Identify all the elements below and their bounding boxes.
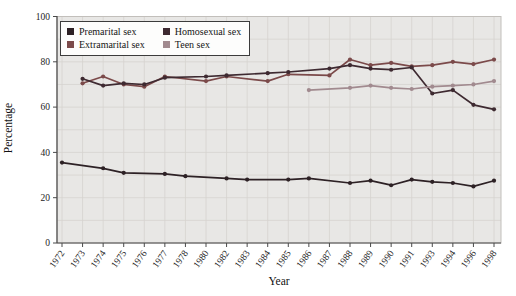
data-point bbox=[389, 86, 393, 90]
data-point bbox=[60, 160, 64, 164]
legend-item: Teen sex bbox=[163, 38, 241, 51]
data-point bbox=[410, 177, 414, 181]
y-tick-label: 20 bbox=[41, 193, 51, 203]
x-tick-label: 1987 bbox=[315, 248, 334, 270]
data-point bbox=[307, 176, 311, 180]
x-tick-label: 1984 bbox=[253, 248, 272, 270]
data-point bbox=[389, 61, 393, 65]
x-tick-label: 1996 bbox=[459, 248, 478, 270]
data-point bbox=[80, 77, 84, 81]
data-point bbox=[451, 181, 455, 185]
data-point bbox=[348, 63, 352, 67]
data-point bbox=[142, 82, 146, 86]
data-point bbox=[122, 171, 126, 175]
data-point bbox=[451, 60, 455, 64]
legend-swatch-icon bbox=[163, 28, 170, 35]
x-tick-label: 1993 bbox=[418, 248, 437, 270]
data-point bbox=[183, 174, 187, 178]
data-point bbox=[307, 88, 311, 92]
data-point bbox=[471, 62, 475, 66]
data-point bbox=[430, 91, 434, 95]
data-point bbox=[101, 74, 105, 78]
data-point bbox=[348, 57, 352, 61]
legend-swatch-icon bbox=[67, 28, 74, 35]
x-tick-label: 1982 bbox=[212, 248, 231, 270]
data-point bbox=[389, 68, 393, 72]
data-point bbox=[348, 86, 352, 90]
data-point bbox=[286, 177, 290, 181]
data-point bbox=[101, 166, 105, 170]
data-point bbox=[224, 73, 228, 77]
data-point bbox=[286, 70, 290, 74]
data-point bbox=[430, 85, 434, 89]
y-tick-label: 100 bbox=[36, 12, 51, 22]
data-point bbox=[471, 82, 475, 86]
x-tick-label: 1994 bbox=[438, 248, 457, 270]
x-axis-title: Year bbox=[57, 275, 501, 287]
data-point bbox=[471, 103, 475, 107]
data-point bbox=[492, 79, 496, 83]
data-point bbox=[204, 74, 208, 78]
x-tick-label: 1978 bbox=[171, 248, 190, 270]
x-tick-label: 1974 bbox=[89, 248, 108, 270]
x-tick-label: 1975 bbox=[109, 248, 128, 270]
data-point bbox=[163, 172, 167, 176]
data-point bbox=[327, 66, 331, 70]
data-point bbox=[163, 76, 167, 80]
data-point bbox=[204, 79, 208, 83]
chart-container: 0204060801001972197319741975197619771978… bbox=[0, 0, 516, 296]
data-point bbox=[245, 177, 249, 181]
data-point bbox=[410, 87, 414, 91]
data-point bbox=[471, 184, 475, 188]
data-point bbox=[368, 83, 372, 87]
data-point bbox=[451, 88, 455, 92]
legend-swatch-icon bbox=[163, 41, 170, 48]
data-point bbox=[368, 179, 372, 183]
data-point bbox=[492, 57, 496, 61]
y-tick-label: 60 bbox=[41, 102, 51, 112]
data-point bbox=[368, 66, 372, 70]
x-tick-label: 1998 bbox=[480, 248, 499, 270]
legend-label: Teen sex bbox=[175, 38, 210, 51]
data-point bbox=[101, 83, 105, 87]
data-point bbox=[224, 176, 228, 180]
data-point bbox=[389, 183, 393, 187]
data-point bbox=[266, 79, 270, 83]
y-tick-label: 40 bbox=[41, 148, 51, 158]
data-point bbox=[492, 107, 496, 111]
x-tick-label: 1972 bbox=[48, 248, 67, 270]
data-point bbox=[80, 81, 84, 85]
x-tick-label: 1989 bbox=[356, 248, 375, 270]
legend-label: Extramarital sex bbox=[79, 38, 145, 51]
x-tick-label: 1973 bbox=[68, 248, 87, 270]
legend-label: Premarital sex bbox=[79, 25, 136, 38]
y-axis-title: Percentage bbox=[2, 83, 14, 173]
x-tick-label: 1983 bbox=[233, 248, 252, 270]
legend: Premarital sexHomosexual sexExtramarital… bbox=[60, 21, 250, 56]
data-point bbox=[492, 179, 496, 183]
x-tick-label: 1991 bbox=[397, 248, 416, 270]
legend-swatch-icon bbox=[67, 41, 74, 48]
legend-item: Premarital sex bbox=[67, 25, 145, 38]
data-point bbox=[348, 181, 352, 185]
data-point bbox=[451, 83, 455, 87]
x-tick-label: 1986 bbox=[294, 248, 313, 270]
data-point bbox=[266, 71, 270, 75]
x-tick-label: 1988 bbox=[336, 248, 355, 270]
data-point bbox=[327, 73, 331, 77]
data-point bbox=[430, 63, 434, 67]
data-point bbox=[410, 65, 414, 69]
x-tick-label: 1977 bbox=[150, 248, 169, 270]
x-tick-label: 1980 bbox=[192, 248, 211, 270]
y-tick-label: 80 bbox=[41, 57, 51, 67]
x-tick-label: 1976 bbox=[130, 248, 149, 270]
legend-label: Homosexual sex bbox=[175, 25, 241, 38]
data-point bbox=[122, 81, 126, 85]
legend-item: Homosexual sex bbox=[163, 25, 241, 38]
y-tick-label: 0 bbox=[45, 238, 50, 248]
legend-item: Extramarital sex bbox=[67, 38, 145, 51]
data-point bbox=[430, 180, 434, 184]
x-tick-label: 1985 bbox=[274, 248, 293, 270]
x-tick-label: 1990 bbox=[377, 248, 396, 270]
